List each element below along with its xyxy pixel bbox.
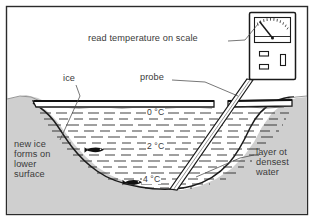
- annotation-densest-water-layer: layer ot densest water: [256, 148, 289, 178]
- annotation-ice: ice: [63, 74, 75, 84]
- figure-container: read temperature on scale ice probe new …: [0, 0, 315, 222]
- annotation-probe: probe: [140, 73, 164, 83]
- temperature-label-middle: 2 °C: [146, 142, 165, 151]
- meter-side-slot[interactable]: [281, 55, 286, 66]
- annotation-new-ice-forms: new ice forms on lower surface: [14, 140, 51, 180]
- annotation-read-temperature: read temperature on scale: [88, 34, 198, 44]
- temperature-label-bottom: 4 °C: [142, 175, 161, 184]
- meter-upper-button[interactable]: [260, 52, 269, 57]
- temperature-meter[interactable]: [250, 13, 296, 80]
- temperature-label-surface: 0 °C: [146, 108, 165, 117]
- meter-lower-button[interactable]: [260, 65, 269, 70]
